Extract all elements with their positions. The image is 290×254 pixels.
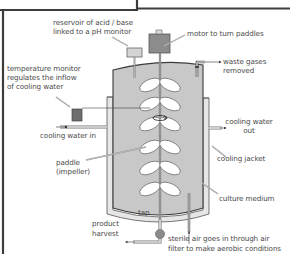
motor-label: motor to turn paddles (187, 29, 264, 38)
motor-cap (156, 30, 162, 34)
tap-icon (155, 229, 164, 238)
reservoir-leader-inner (112, 37, 128, 46)
temperature-label-line2: regulates the inflow (7, 73, 76, 82)
cooling-water-in-label: cooling water in (40, 131, 96, 140)
cooling-jacket-label: cooling jacket (217, 154, 265, 163)
temperature-monitor-box (72, 109, 82, 121)
motor-box (149, 34, 170, 53)
reservoir-label-line1: reservoir of acid / base (53, 18, 133, 27)
waste-gases-label-line2: removed (223, 66, 254, 75)
paddle-label-line1: paddle (56, 158, 80, 167)
product-harvest-label-line2: harvest (92, 229, 118, 238)
reservoir-label-line2: linked to a pH monitor (53, 27, 131, 36)
cooling-water-out-label-line1: cooling water (218, 117, 280, 126)
sterile-air-label-line1: sterile air goes in through air (168, 234, 269, 243)
cooling-water-out-label-line2: out (218, 126, 280, 135)
sterile-air-label-line2: filter to make aerobic conditions (168, 244, 281, 253)
tap-label: tap (138, 208, 150, 217)
cooling-water-in-valve-icon (65, 126, 67, 128)
product-harvest-pipe (125, 220, 160, 243)
temperature-leader-inner (56, 97, 70, 107)
waste-gases-label-line1: waste gases (223, 57, 266, 66)
culture-medium-label: culture medium (219, 194, 275, 203)
temperature-label-line1: temperature monitor (7, 64, 81, 73)
reservoir-box (127, 48, 142, 57)
product-harvest-label-line1: product (92, 219, 119, 228)
temperature-label-line3: of cooling water (7, 82, 63, 91)
paddle-label-line2: (impeller) (56, 167, 90, 176)
